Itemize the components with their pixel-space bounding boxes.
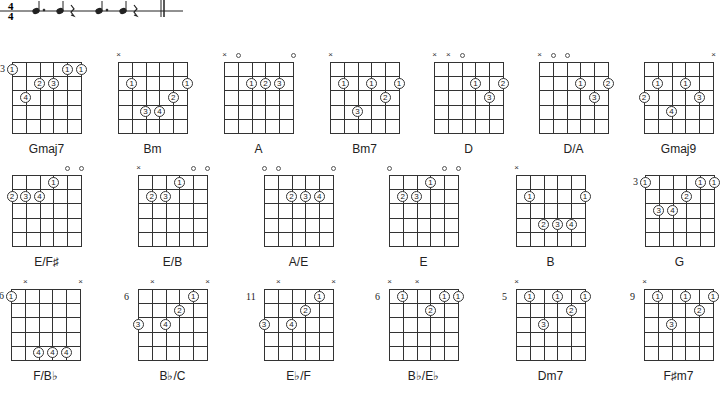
string-line: [53, 62, 54, 133]
fret-line: [12, 232, 82, 233]
finger-dot: 2: [286, 191, 297, 202]
finger-dot: 4: [314, 191, 325, 202]
finger-dot: 2: [603, 78, 614, 89]
fret-line: [138, 303, 208, 304]
string-line: [152, 289, 153, 360]
finger-dot: 2: [34, 78, 45, 89]
fret-line: [264, 203, 334, 204]
string-line: [319, 175, 320, 246]
rhythm-notes: [32, 1, 137, 16]
fret-line: [264, 232, 334, 233]
finger-dot: 1: [188, 291, 199, 302]
chord-diagram: ×11234: [118, 62, 187, 133]
chord-diagram: ×123: [224, 62, 293, 133]
string-line: [713, 62, 714, 133]
finger-dot: 1: [425, 177, 436, 188]
finger-dot: 2: [168, 92, 179, 103]
fret-line: [330, 90, 400, 91]
muted-string-icon: ×: [513, 278, 521, 286]
fret-number: 6: [0, 290, 4, 301]
string-line: [25, 289, 26, 360]
finger-dot: 3: [274, 78, 285, 89]
fret-line: [389, 189, 459, 190]
string-line: [571, 175, 572, 246]
finger-dot: 1: [708, 291, 719, 302]
finger-dot: 1: [126, 78, 137, 89]
fret-line: [138, 246, 208, 247]
fret-line: [434, 119, 504, 120]
string-line: [686, 175, 687, 246]
fret-line: [389, 232, 459, 233]
string-line: [503, 62, 504, 133]
string-line: [265, 62, 266, 133]
fret-line: [264, 246, 334, 247]
finger-dot: 4: [286, 319, 297, 330]
string-line: [557, 175, 558, 246]
fret-line: [389, 317, 459, 318]
fret-line: [389, 346, 459, 347]
fret-number: 6: [375, 291, 380, 302]
string-line: [516, 289, 517, 360]
string-line: [152, 175, 153, 246]
chord-diagram: ××111234: [264, 289, 333, 360]
string-line: [146, 62, 147, 133]
string-line: [138, 175, 139, 246]
muted-string-icon: ×: [148, 278, 156, 286]
string-line: [118, 62, 119, 133]
muted-string-icon: ×: [386, 278, 394, 286]
fret-number: 11: [246, 291, 256, 302]
fret-line: [12, 119, 82, 120]
fret-line: [330, 62, 400, 63]
fret-line: [539, 105, 609, 106]
open-string-icon: [456, 166, 461, 171]
chord-diagram: 1234: [12, 175, 81, 246]
string-line: [371, 62, 372, 133]
finger-dot: 2: [146, 191, 157, 202]
finger-dot: 1: [470, 78, 481, 89]
fret-line: [11, 332, 81, 333]
fret-line: [516, 175, 586, 176]
fret-line: [434, 62, 504, 63]
string-line: [278, 289, 279, 360]
string-line: [278, 175, 279, 246]
fret-line: [645, 175, 715, 176]
fret-line: [118, 62, 188, 63]
string-line: [333, 175, 334, 246]
muted-string-icon: ×: [327, 51, 335, 59]
chord-name: B: [511, 255, 591, 269]
fret-line: [12, 90, 82, 91]
fret-line: [644, 119, 714, 120]
muted-string-icon: ×: [536, 51, 544, 59]
fret-line: [264, 189, 334, 190]
open-string-icon: [551, 53, 556, 58]
string-line: [580, 62, 581, 133]
finger-dot: 1: [580, 191, 591, 202]
fret-line: [644, 332, 714, 333]
finger-dot: 1: [709, 177, 720, 188]
fret-line: [118, 76, 188, 77]
open-string-icon: [442, 166, 447, 171]
fret-line: [138, 232, 208, 233]
finger-dot: 3: [589, 92, 600, 103]
finger-dot: 4: [160, 319, 171, 330]
string-line: [207, 289, 208, 360]
chord-diagram: ×11234: [644, 62, 713, 133]
string-line: [166, 175, 167, 246]
fret-line: [539, 90, 609, 91]
finger-dot: 3: [538, 319, 549, 330]
fret-line: [138, 346, 208, 347]
fret-line: [12, 218, 82, 219]
string-line: [293, 62, 294, 133]
fret-line: [645, 203, 715, 204]
string-line: [699, 289, 700, 360]
finger-dot: 2: [498, 78, 509, 89]
open-string-icon: [191, 166, 196, 171]
finger-dot: 1: [62, 64, 73, 75]
fret-line: [264, 289, 334, 290]
string-line: [305, 175, 306, 246]
finger-dot: 4: [666, 106, 677, 117]
fret-line: [539, 76, 609, 77]
finger-dot: 1: [174, 177, 185, 188]
string-line: [344, 62, 345, 133]
finger-dot: 1: [652, 78, 663, 89]
